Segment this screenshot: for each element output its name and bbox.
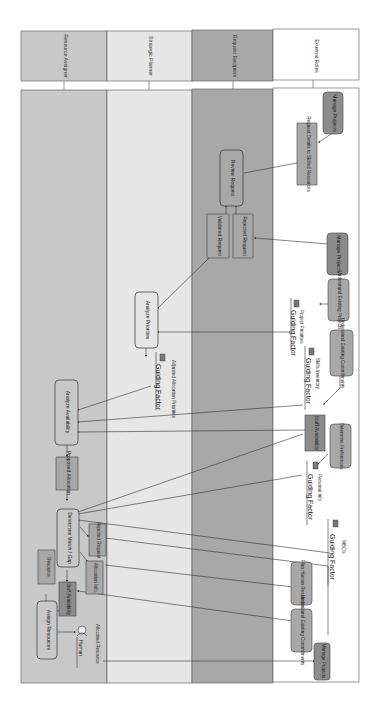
node-label: Analyze Availability [65, 391, 71, 434]
node-label: Resource [46, 557, 51, 577]
guiding-factor-caption: Personal Info [317, 474, 322, 502]
node-determine-match-gap[interactable]: Determine Match / Gap [57, 509, 79, 567]
node-request-details[interactable]: Request Details to Skilled Resources [297, 116, 317, 192]
node-label: Manage Projects [332, 94, 338, 132]
node-rejected-request-1[interactable]: Rejected Request [233, 214, 253, 258]
node-manage-projects-1[interactable]: Manage Projects [323, 92, 343, 134]
node-validated-request[interactable]: Validated Request [207, 214, 229, 258]
human-caption: Allocated Resource [95, 624, 100, 664]
guiding-factor-caption: MBO's [341, 540, 346, 554]
guiding-factor-caption: Skills Inventory [315, 358, 320, 390]
node-label: Manage Projects [336, 235, 342, 273]
guiding-factor-caption: Adjusted Allocation Priorities [171, 360, 176, 419]
node-label: Review Request [230, 160, 236, 197]
node-allocation-info[interactable]: Allocation Info. [86, 561, 103, 594]
node-determine-preferences[interactable]: Determine Preferences [330, 422, 351, 470]
lane-headers: Resource Assigner Strategic Planner Requ… [21, 29, 359, 90]
guiding-factor-label: Guiding Factor [306, 474, 314, 521]
node-rejected-request-2[interactable]: Rejected Request [89, 522, 106, 559]
node-label: Rejected Request [96, 522, 101, 559]
lane-label-request-recipient: Request Recipient [232, 35, 238, 78]
node-label: Determine Preferences [339, 422, 344, 470]
lane-label-resource-assigner: Resource Assigner [63, 34, 69, 78]
node-label: Determine Match / Gap [67, 512, 73, 564]
node-analyze-availability[interactable]: Analyze Availability [55, 380, 78, 445]
node-label: Staff Availability [314, 416, 320, 451]
node-label: Validated Request [217, 216, 223, 257]
node-label: Analyze Priorities [145, 301, 151, 340]
node-label: Rejected Request [242, 216, 248, 256]
guiding-factor-icon [160, 354, 165, 361]
guiding-factor-icon [313, 462, 318, 469]
node-proposed-allocation[interactable]: Proposed Allocation [56, 451, 78, 495]
guiding-factor-label: Guiding Factor [328, 534, 336, 581]
lane-label-external-roles: External Roles [314, 39, 320, 73]
node-label: Allocation Info. [93, 563, 98, 593]
node-label: Request Details to Skilled Resources [306, 116, 311, 192]
guiding-factor-label: Guiding Factor [304, 358, 312, 405]
node-manage-projects-2[interactable]: Manage Projects [327, 233, 348, 275]
node-manage-projects-3[interactable]: Manage Projects [314, 643, 330, 680]
human-label: Human [78, 640, 84, 656]
node-analyze-priorities[interactable]: Analyze Priorities [135, 292, 158, 348]
guiding-factor-icon [309, 348, 314, 355]
node-label: Understand Existing Commitments [300, 595, 305, 666]
node-label: Manage Projects [321, 644, 326, 679]
node-review-request[interactable]: Review Request [220, 150, 243, 206]
node-staff-availability-2[interactable]: Staff Availability [59, 582, 76, 616]
node-label: Assign Resources [46, 610, 52, 651]
lane-label-strategic-planner: Strategic Planner [148, 36, 154, 76]
guiding-factor-label: Guiding Factor [289, 310, 297, 357]
node-staff-availability-1[interactable]: Staff Availability [305, 415, 325, 451]
node-assign-resources[interactable]: Assign Resources [37, 601, 57, 659]
swimlane-diagram: Resource Assigner Strategic Planner Requ… [0, 0, 381, 701]
node-resource[interactable]: Resource [38, 550, 55, 584]
guiding-factor-label: Guiding Factor [154, 364, 162, 411]
guiding-factor-icon [333, 520, 338, 527]
node-label: Understand Existing Commitments [340, 318, 345, 389]
node-label: Proposed Allocation [66, 451, 72, 495]
node-label: Staff Availability [66, 583, 71, 616]
guiding-factor-icon [294, 300, 299, 307]
guiding-factor-caption: Project Priorities [299, 310, 304, 344]
